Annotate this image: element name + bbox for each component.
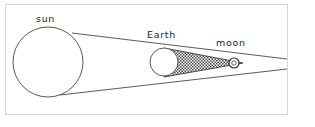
sun-circle: [13, 27, 83, 97]
moon-circle: [229, 58, 239, 68]
sun-label: sun: [36, 13, 55, 24]
eclipse-illustration: sun Earth moon: [0, 0, 315, 127]
earth-circle: [150, 48, 178, 76]
eclipse-diagram: sun Earth moon: [0, 0, 315, 127]
earth-label: Earth: [147, 29, 176, 40]
moon-label: moon: [216, 37, 246, 48]
